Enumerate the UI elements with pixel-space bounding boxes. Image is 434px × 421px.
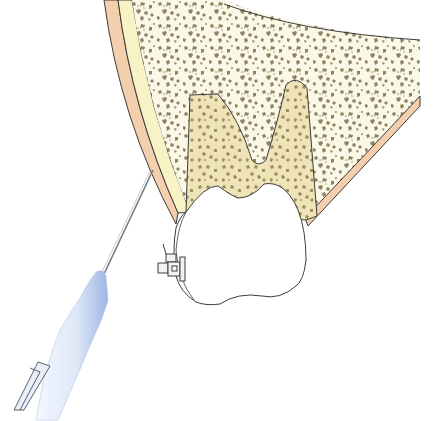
illustration-canvas [0,0,434,421]
tooth-crown [174,184,306,305]
dental-illustration [0,0,434,421]
syringe [14,271,108,420]
injection-needle [101,170,153,274]
